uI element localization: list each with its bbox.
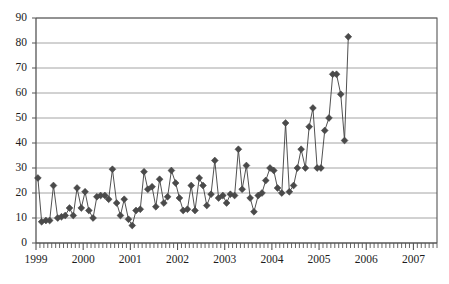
y-axis-tick-label: 60 [3,87,27,98]
x-axis-tick-label: 2000 [60,253,106,265]
data-point [196,175,203,182]
y-axis-tick-label: 10 [3,212,27,223]
data-point [66,205,73,212]
data-point [164,193,171,200]
data-point [310,105,317,112]
x-axis-tick-label: 2003 [202,253,248,265]
data-point [262,177,269,184]
data-point [152,203,159,210]
y-axis-tick-label: 70 [3,62,27,73]
y-axis-tick-label: 50 [3,112,27,123]
data-point [235,146,242,153]
data-point [247,195,254,202]
data-point [337,91,344,98]
x-axis-tick-label: 2007 [390,253,436,265]
line-chart-plot [0,0,449,284]
data-point [251,208,258,215]
x-axis-tick-label: 2004 [249,253,295,265]
data-point [82,188,89,195]
data-point [156,176,163,183]
data-point [203,202,210,209]
data-point [125,216,132,223]
data-point [282,120,289,127]
plot-frame [36,18,437,243]
x-axis-tick-label: 2005 [296,253,342,265]
data-point [121,196,128,203]
data-point [176,195,183,202]
x-axis-tick-label: 2001 [107,253,153,265]
y-axis-tick-label: 90 [3,12,27,23]
data-point [90,215,97,222]
data-point [85,207,92,214]
data-point [286,188,293,195]
data-point [129,222,136,229]
data-point [50,182,57,189]
data-point [208,191,215,198]
data-point [321,127,328,134]
data-point [302,165,309,172]
data-point [172,180,179,187]
data-point [290,182,297,189]
data-point [239,186,246,193]
series-line-0 [38,37,348,226]
data-point [306,123,313,130]
data-point [188,182,195,189]
chart-container: 0102030405060708090199920002001200220032… [0,0,449,284]
x-axis-tick-label: 2006 [343,253,389,265]
y-axis-tick-label: 30 [3,162,27,173]
data-point [326,115,333,122]
data-point [294,165,301,172]
data-point [223,200,230,207]
data-point [192,207,199,214]
data-point [345,33,352,40]
y-axis-tick-label: 40 [3,137,27,148]
y-axis-tick-label: 80 [3,37,27,48]
x-axis-tick-label: 1999 [13,253,59,265]
data-point [211,157,218,164]
x-axis-tick-label: 2002 [155,253,201,265]
data-point [160,200,167,207]
data-point [78,205,85,212]
data-point [141,168,148,175]
data-point [109,166,116,173]
y-axis-tick-label: 0 [3,237,27,248]
y-axis-tick-label: 20 [3,187,27,198]
data-point [74,185,81,192]
data-point [298,146,305,153]
data-point [200,182,207,189]
data-point [113,200,120,207]
